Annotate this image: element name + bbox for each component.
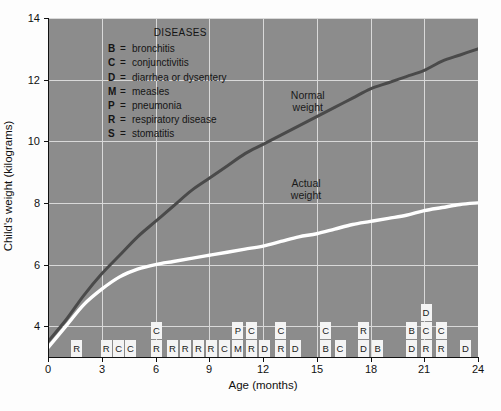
x-tick-label-12: 12 (257, 363, 269, 375)
legend-entry-P: P=pneumonia (108, 99, 227, 113)
disease-marker-R: R (246, 340, 257, 357)
legend-equals: = (120, 71, 132, 85)
legend-label: pneumonia (132, 100, 181, 111)
series-label-actual-weight: Actual weight (291, 177, 321, 201)
disease-marker-column: RC (436, 321, 447, 357)
legend-key: C (108, 56, 120, 70)
disease-marker-column: C (113, 339, 124, 357)
legend-entry-B: B=bronchitis (108, 42, 227, 56)
weight-growth-chart: RRCCRCRRRRCMPRCDRCDBCCDRBDBRCDRCD Normal… (0, 0, 501, 411)
x-tick-label-0: 0 (45, 363, 51, 375)
legend-label: diarrhea or dysentery (132, 72, 227, 83)
y-tick-10 (44, 141, 48, 142)
disease-marker-column: R (71, 339, 82, 357)
legend-entry-D: D=diarrhea or dysentery (108, 71, 227, 85)
disease-marker-C: C (275, 322, 286, 339)
disease-marker-B: B (406, 322, 417, 339)
legend-label: respiratory disease (132, 114, 216, 125)
disease-marker-D: D (290, 340, 301, 357)
disease-legend: DISEASES B=bronchitisC=conjunctivitisD=d… (108, 26, 227, 142)
x-tick-9 (209, 358, 210, 362)
legend-label: stomatitis (132, 128, 174, 139)
x-tick-label-6: 6 (153, 363, 159, 375)
disease-marker-column: RC (275, 321, 286, 357)
x-tick-24 (478, 358, 479, 362)
x-tick-21 (424, 358, 425, 362)
disease-marker-R: R (151, 340, 162, 357)
legend-entry-C: C=conjunctivitis (108, 56, 227, 70)
legend-equals: = (120, 56, 132, 70)
disease-marker-R: R (71, 340, 82, 357)
legend-entry-S: S=stomatitis (108, 127, 227, 141)
disease-marker-column: BC (320, 321, 331, 357)
y-tick-label-8: 8 (34, 197, 40, 209)
legend-equals: = (120, 42, 132, 56)
disease-marker-C: C (320, 322, 331, 339)
disease-marker-P: P (232, 322, 243, 339)
legend-entry-R: R=respiratory disease (108, 113, 227, 127)
disease-marker-column: RC (151, 321, 162, 357)
disease-marker-B: B (372, 340, 383, 357)
legend-key: B (108, 42, 120, 56)
disease-marker-C: C (246, 322, 257, 339)
x-tick-12 (263, 358, 264, 362)
disease-marker-R: R (180, 340, 191, 357)
disease-marker-R: R (436, 340, 447, 357)
disease-marker-D: D (406, 340, 417, 357)
x-tick-3 (102, 358, 103, 362)
y-tick-8 (44, 203, 48, 204)
x-tick-label-3: 3 (99, 363, 105, 375)
legend-equals: = (120, 85, 132, 99)
legend-equals: = (120, 127, 132, 141)
disease-marker-D: D (460, 340, 471, 357)
legend-key: D (108, 71, 120, 85)
disease-marker-B: B (320, 340, 331, 357)
disease-marker-C: C (421, 322, 432, 339)
disease-marker-C: C (151, 322, 162, 339)
legend-key: P (108, 99, 120, 113)
disease-marker-C: C (219, 340, 230, 357)
legend-key: R (108, 113, 120, 127)
disease-marker-column: MP (232, 321, 243, 357)
x-tick-label-24: 24 (472, 363, 484, 375)
legend-label: conjunctivitis (132, 57, 189, 68)
y-axis-title: Child's weight (kilograms) (2, 121, 14, 252)
disease-marker-column: RCD (421, 303, 432, 357)
disease-marker-column: R (193, 339, 204, 357)
disease-marker-column: C (219, 339, 230, 357)
legend-label: measles (132, 86, 169, 97)
disease-marker-column: D (290, 339, 301, 357)
x-tick-0 (48, 358, 49, 362)
disease-marker-column: B (372, 339, 383, 357)
x-tick-label-18: 18 (365, 363, 377, 375)
disease-marker-column: D (460, 339, 471, 357)
legend-title: DISEASES (134, 26, 227, 40)
legend-equals: = (120, 113, 132, 127)
y-tick-label-4: 4 (34, 320, 40, 332)
disease-marker-M: M (232, 340, 243, 357)
x-tick-6 (156, 358, 157, 362)
legend-entry-M: M=measles (108, 85, 227, 99)
x-tick-label-15: 15 (311, 363, 323, 375)
x-tick-18 (371, 358, 372, 362)
disease-marker-R: R (275, 340, 286, 357)
disease-marker-column: DR (358, 321, 369, 357)
disease-marker-column: D (259, 339, 270, 357)
disease-marker-R: R (206, 340, 217, 357)
legend-equals: = (120, 99, 132, 113)
disease-marker-D: D (259, 340, 270, 357)
y-tick-label-6: 6 (34, 259, 40, 271)
disease-marker-column: DB (406, 321, 417, 357)
x-tick-label-21: 21 (418, 363, 430, 375)
disease-marker-C: C (125, 340, 136, 357)
y-tick-label-10: 10 (28, 135, 40, 147)
y-tick-14 (44, 18, 48, 19)
disease-marker-column: C (335, 339, 346, 357)
x-tick-15 (317, 358, 318, 362)
disease-marker-R: R (193, 340, 204, 357)
y-tick-4 (44, 326, 48, 327)
series-label-normal-weight: Normal weight (291, 89, 325, 113)
x-axis-title: Age (months) (228, 379, 297, 391)
legend-rows: B=bronchitisC=conjunctivitisD=diarrhea o… (108, 42, 227, 141)
legend-label: bronchitis (132, 43, 175, 54)
